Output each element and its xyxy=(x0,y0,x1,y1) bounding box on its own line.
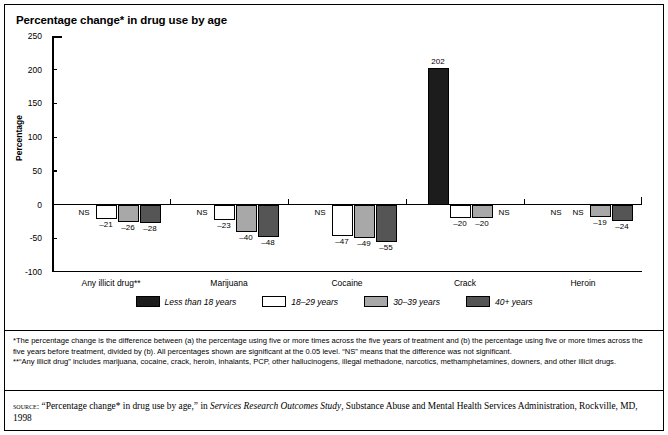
bar-value-label: –47 xyxy=(335,237,348,246)
plot-area: Percentage 250200150100500-50-100 NS–21–… xyxy=(16,36,646,296)
y-tick-label: -100 xyxy=(25,267,42,277)
x-axis-group-label: Marijuana xyxy=(210,278,247,288)
legend-item: Less than 18 years xyxy=(136,296,237,307)
y-tick-label: 100 xyxy=(28,132,42,142)
group-separator-tick xyxy=(170,199,171,205)
bar xyxy=(214,205,235,221)
bar-value-label: 202 xyxy=(431,57,444,66)
bar xyxy=(258,205,279,237)
legend-label: 40+ years xyxy=(495,297,533,307)
not-significant-label: NS xyxy=(78,208,89,217)
source-label: source: xyxy=(13,401,39,411)
y-axis-tick-labels: 250200150100500-50-100 xyxy=(16,36,46,272)
y-tick-label: 0 xyxy=(37,200,42,210)
legend: Less than 18 years18–29 years30–39 years… xyxy=(0,296,668,307)
group-separator-tick xyxy=(641,197,642,205)
bar-value-label: –26 xyxy=(121,223,134,232)
figure-page: Percentage change* in drug use by age Pe… xyxy=(0,0,668,435)
source-quote: “Percentage change* in drug use by age,” xyxy=(42,401,198,411)
legend-label: Less than 18 years xyxy=(165,297,237,307)
footnote-2: **“Any illicit drug” includes marijuana,… xyxy=(13,357,653,368)
axis-area: NS–21–26–28NS–23–40–48NS–47–49–55202–20–… xyxy=(52,36,642,272)
source-in: in xyxy=(200,401,207,411)
bar-value-label: –28 xyxy=(143,224,156,233)
bar xyxy=(118,205,139,223)
legend-item: 18–29 years xyxy=(262,296,338,307)
not-significant-label: NS xyxy=(498,208,509,217)
y-tick-label: 50 xyxy=(33,166,42,176)
divider-above-footnotes xyxy=(5,330,663,331)
bar xyxy=(590,205,611,218)
legend-label: 18–29 years xyxy=(291,297,338,307)
chart-title: Percentage change* in drug use by age xyxy=(16,14,227,26)
not-significant-label: NS xyxy=(196,208,207,217)
bar-value-label: –55 xyxy=(379,243,392,252)
bar-value-label: –19 xyxy=(593,218,606,227)
bar xyxy=(140,205,161,224)
y-tick-mark xyxy=(52,137,57,138)
y-tick-label: 200 xyxy=(28,65,42,75)
legend-label: 30–39 years xyxy=(393,297,440,307)
group-separator-tick xyxy=(406,199,407,205)
bar-value-label: –21 xyxy=(99,220,112,229)
group-separator-tick xyxy=(288,199,289,205)
group-separator-tick xyxy=(524,199,525,205)
bar-value-label: –20 xyxy=(453,219,466,228)
x-axis-baseline xyxy=(52,271,642,273)
y-tick-mark xyxy=(52,170,57,171)
legend-swatch xyxy=(262,296,286,307)
legend-swatch xyxy=(136,296,160,307)
bar-value-label: –24 xyxy=(615,222,628,231)
bar xyxy=(236,205,257,232)
bar xyxy=(428,68,449,204)
bar xyxy=(612,205,633,221)
legend-item: 40+ years xyxy=(466,296,533,307)
y-tick-label: 250 xyxy=(28,31,42,41)
y-tick-mark xyxy=(52,238,57,239)
y-axis-top-cap xyxy=(52,36,62,38)
footnotes: *The percentage change is the difference… xyxy=(13,336,653,368)
y-tick-mark xyxy=(52,103,57,104)
source-study-title: Services Research Outcomes Study xyxy=(210,401,341,411)
bar xyxy=(376,205,397,242)
source-line: source: “Percentage change* in drug use … xyxy=(13,400,655,425)
bar xyxy=(354,205,375,238)
not-significant-label: NS xyxy=(550,208,561,217)
bar xyxy=(472,205,493,218)
not-significant-label: NS xyxy=(572,208,583,217)
x-axis-group-label: Any illicit drug** xyxy=(81,278,140,288)
footnote-1: *The percentage change is the difference… xyxy=(13,336,653,357)
x-axis-group-label: Cocaine xyxy=(331,278,362,288)
y-tick-label: -50 xyxy=(30,233,42,243)
bar-value-label: –23 xyxy=(217,221,230,230)
y-axis-line xyxy=(52,36,54,272)
divider-above-source xyxy=(5,390,663,391)
legend-swatch xyxy=(364,296,388,307)
y-tick-label: 150 xyxy=(28,98,42,108)
not-significant-label: NS xyxy=(314,208,325,217)
x-axis-group-label: Heroin xyxy=(570,278,595,288)
bar xyxy=(332,205,353,237)
legend-item: 30–39 years xyxy=(364,296,440,307)
bar-value-label: –40 xyxy=(239,233,252,242)
legend-swatch xyxy=(466,296,490,307)
bar xyxy=(450,205,471,218)
y-tick-mark xyxy=(52,69,57,70)
bar-value-label: –48 xyxy=(261,238,274,247)
bar-value-label: –20 xyxy=(475,219,488,228)
x-axis-group-label: Crack xyxy=(454,278,476,288)
bar xyxy=(96,205,117,219)
y-tick-mark xyxy=(52,204,57,205)
bar-value-label: –49 xyxy=(357,239,370,248)
